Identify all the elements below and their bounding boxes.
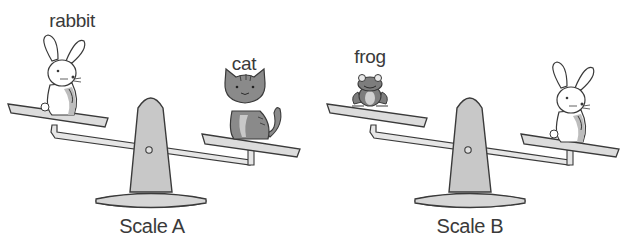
scale-a-caption: Scale A <box>119 215 185 238</box>
rabbit-icon <box>41 35 85 115</box>
frog-icon <box>352 75 388 107</box>
scale-a-right-label: cat <box>232 53 256 75</box>
scale-b-caption: Scale B <box>437 215 504 238</box>
scale-b <box>327 62 619 208</box>
scales-drawing <box>0 0 628 245</box>
scale-b-left-label: frog <box>354 46 386 68</box>
cat-icon <box>225 69 281 139</box>
rabbit-icon <box>550 62 594 142</box>
balance-scales-figure: rabbit cat Scale A frog Scale B <box>0 0 628 245</box>
scale-a-left-label: rabbit <box>49 10 95 32</box>
